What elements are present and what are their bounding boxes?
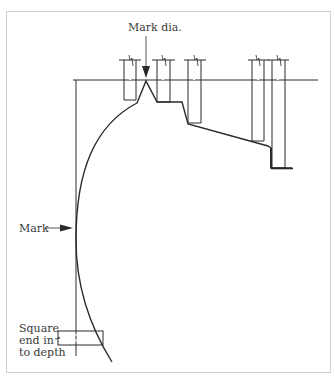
label-mark-dia: Mark dia. [128, 22, 182, 33]
profile-outline [76, 81, 292, 362]
depth-cut-2 [152, 55, 175, 102]
depth-cut-3 [184, 55, 206, 123]
depth-cut-1 [119, 55, 141, 100]
mark-arrow [45, 225, 73, 232]
mark-dia-arrow [142, 36, 150, 78]
label-mark: Mark [19, 223, 49, 234]
label-square-end-line-3: to depth [19, 347, 67, 359]
depth-cut-4 [248, 55, 269, 141]
label-square-end: Square end in to depth [19, 323, 67, 359]
